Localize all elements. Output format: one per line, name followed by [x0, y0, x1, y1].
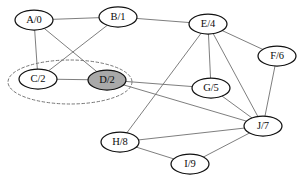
node-j[interactable]: J/7	[244, 116, 282, 136]
node-label-g: G/5	[203, 82, 218, 93]
node-g[interactable]: G/5	[192, 78, 230, 98]
edge-f-j	[265, 66, 275, 116]
edge-g-j	[222, 96, 252, 118]
node-f[interactable]: F/6	[258, 46, 296, 66]
edge-e-h	[127, 33, 201, 132]
edge-h-j	[139, 128, 245, 140]
edge-e-g	[208, 34, 210, 78]
edge-a-b	[53, 18, 99, 20]
node-label-c: C/2	[31, 73, 46, 84]
edge-b-e	[137, 18, 189, 22]
node-h[interactable]: H/8	[101, 132, 139, 152]
node-i[interactable]: I/9	[171, 154, 209, 174]
node-label-d: D/2	[99, 74, 114, 85]
edge-b-c	[49, 25, 108, 70]
node-e[interactable]: E/4	[189, 14, 227, 34]
graph-canvas: A/0B/1E/4F/6C/2D/2G/5J/7H/8I/9	[0, 0, 302, 182]
edge-a-d	[44, 28, 97, 71]
node-label-i: I/9	[184, 158, 195, 169]
edge-i-j	[204, 133, 250, 157]
edge-h-i	[136, 147, 173, 159]
graph-figure: A/0B/1E/4F/6C/2D/2G/5J/7H/8I/9	[0, 0, 302, 182]
node-c[interactable]: C/2	[19, 69, 57, 89]
edge-layer	[35, 18, 275, 159]
node-a[interactable]: A/0	[15, 10, 53, 30]
node-layer: A/0B/1E/4F/6C/2D/2G/5J/7H/8I/9	[15, 7, 296, 174]
node-label-h: H/8	[112, 136, 127, 147]
node-label-e: E/4	[201, 18, 216, 29]
node-label-f: F/6	[270, 50, 284, 61]
node-label-a: A/0	[26, 14, 41, 25]
node-label-j: J/7	[257, 120, 269, 131]
node-b[interactable]: B/1	[99, 7, 137, 27]
edge-e-j	[213, 34, 258, 117]
node-d[interactable]: D/2	[88, 70, 126, 90]
edge-e-f	[222, 31, 262, 50]
edge-d-g	[126, 81, 192, 86]
node-label-b: B/1	[111, 11, 126, 22]
